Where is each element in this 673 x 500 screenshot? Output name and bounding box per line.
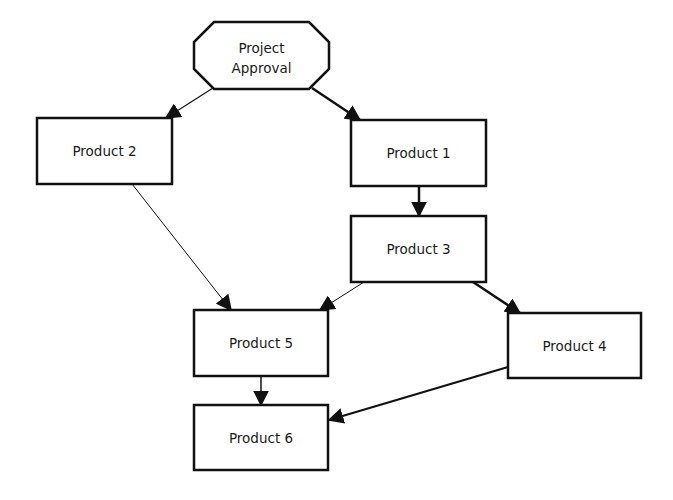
edge-p4-to-p6 bbox=[329, 367, 508, 420]
node-label: Product 4 bbox=[542, 338, 606, 354]
edge-p2-to-p5 bbox=[132, 184, 231, 310]
octagon-shape bbox=[194, 22, 329, 89]
edge-p3-to-p5 bbox=[320, 282, 364, 310]
node-label: Project bbox=[238, 40, 284, 56]
edge-approval-to-p1 bbox=[312, 88, 360, 120]
node-p5[interactable]: Product 5 bbox=[194, 310, 328, 376]
node-label: Product 3 bbox=[386, 241, 450, 257]
node-approval[interactable]: ProjectApproval bbox=[194, 22, 329, 89]
edge-p3-to-p4 bbox=[473, 282, 520, 313]
node-label: Product 1 bbox=[386, 145, 450, 161]
node-label: Approval bbox=[232, 60, 292, 76]
node-label: Product 2 bbox=[72, 143, 136, 159]
node-label: Product 5 bbox=[229, 335, 293, 351]
flowchart-canvas: ProjectApprovalProduct 2Product 1Product… bbox=[0, 0, 673, 500]
node-label: Product 6 bbox=[229, 430, 293, 446]
node-p6[interactable]: Product 6 bbox=[194, 405, 328, 470]
node-p2[interactable]: Product 2 bbox=[37, 118, 172, 184]
node-p1[interactable]: Product 1 bbox=[351, 120, 486, 186]
node-p3[interactable]: Product 3 bbox=[351, 216, 486, 282]
edge-approval-to-p2 bbox=[166, 88, 213, 118]
nodes-layer: ProjectApprovalProduct 2Product 1Product… bbox=[37, 22, 641, 470]
node-p4[interactable]: Product 4 bbox=[508, 313, 641, 378]
